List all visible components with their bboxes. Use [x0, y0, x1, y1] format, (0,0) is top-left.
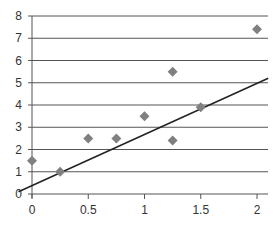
y-tick-label: 2 — [15, 143, 22, 157]
scatter-chart: 012345678 00.511.52 — [0, 0, 276, 225]
x-tick-label: 0.5 — [80, 203, 97, 217]
y-tick-labels: 012345678 — [15, 9, 22, 201]
x-tick-label: 0 — [29, 203, 36, 217]
x-tick-label: 1.5 — [192, 203, 209, 217]
y-tick-label: 6 — [15, 54, 22, 68]
data-point-diamond — [168, 136, 178, 146]
data-point-diamond — [111, 133, 121, 143]
y-tick-label: 4 — [15, 98, 22, 112]
x-tick-label: 2 — [254, 203, 261, 217]
trend-line — [19, 78, 269, 191]
data-point-diamond — [168, 67, 178, 77]
y-tick-label: 0 — [15, 187, 22, 201]
x-tick-labels: 00.511.52 — [29, 203, 261, 217]
y-tick-label: 8 — [15, 9, 22, 23]
y-tick-label: 7 — [15, 31, 22, 45]
x-tick-label: 1 — [141, 203, 148, 217]
data-point-diamond — [83, 133, 93, 143]
gridlines — [32, 16, 268, 194]
data-point-diamond — [27, 156, 37, 166]
data-point-diamond — [252, 24, 262, 34]
data-series — [19, 24, 269, 191]
y-tick-label: 1 — [15, 165, 22, 179]
data-point-diamond — [140, 111, 150, 121]
y-tick-label: 3 — [15, 120, 22, 134]
y-tick-label: 5 — [15, 76, 22, 90]
